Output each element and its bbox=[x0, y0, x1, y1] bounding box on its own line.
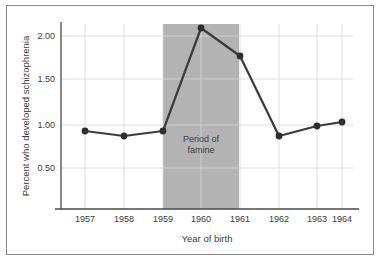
data-point-1959 bbox=[160, 128, 167, 135]
ytick-label-1.00: 1.00 bbox=[37, 120, 55, 130]
famine-annotation-line2: famine bbox=[187, 145, 214, 155]
data-point-1957 bbox=[82, 128, 89, 135]
xtick-label-1957: 1957 bbox=[75, 214, 95, 224]
famine-annotation-line1: Period of bbox=[183, 134, 220, 144]
data-point-1958 bbox=[121, 133, 128, 140]
ytick-label-1.50: 1.50 bbox=[37, 74, 55, 84]
xtick-label-1960: 1960 bbox=[191, 214, 211, 224]
data-point-1962 bbox=[276, 133, 283, 140]
ytick-label-0.50: 0.50 bbox=[37, 163, 55, 173]
xtick-label-1964: 1964 bbox=[332, 214, 352, 224]
schizophrenia-famine-line-chart: 2.00 1.50 1.00 0.50 1957 1958 1959 1960 … bbox=[7, 6, 375, 256]
x-axis-title: Year of birth bbox=[182, 233, 233, 244]
data-point-1960 bbox=[198, 25, 205, 32]
y-axis-title: Percent who developed schizophrenia bbox=[20, 35, 31, 196]
xtick-label-1961: 1961 bbox=[230, 214, 250, 224]
data-point-1961 bbox=[237, 53, 244, 60]
ytick-label-2.00: 2.00 bbox=[37, 31, 55, 41]
xtick-label-1959: 1959 bbox=[153, 214, 173, 224]
data-point-1963 bbox=[314, 123, 321, 130]
xtick-label-1962: 1962 bbox=[269, 214, 289, 224]
xtick-label-1958: 1958 bbox=[114, 214, 134, 224]
xtick-label-1963: 1963 bbox=[307, 214, 327, 224]
figure-frame: 2.00 1.50 1.00 0.50 1957 1958 1959 1960 … bbox=[6, 5, 374, 255]
data-point-1964 bbox=[339, 119, 346, 126]
